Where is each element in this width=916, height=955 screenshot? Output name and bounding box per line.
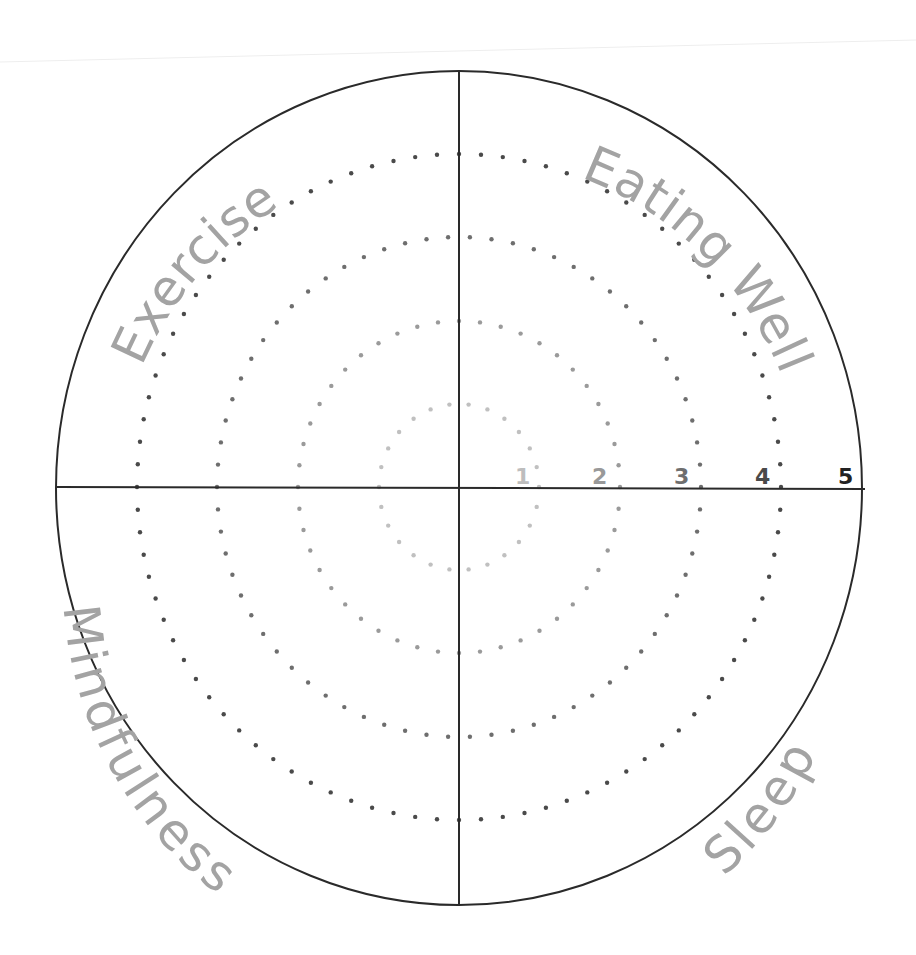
ring-4-dot	[349, 799, 353, 803]
ring-4-dot	[479, 153, 483, 157]
ring-2-dot	[329, 586, 333, 590]
ring-4-dot	[544, 164, 548, 168]
ring-3-dot	[698, 462, 702, 466]
ring-3-dot	[230, 573, 234, 577]
ring-2-dot	[308, 548, 312, 552]
ring-4-dot	[290, 200, 294, 204]
ring-1-dot	[466, 402, 470, 406]
ring-3-dot	[382, 247, 386, 251]
ring-4-dot	[370, 164, 374, 168]
ring-4-dot	[271, 757, 275, 761]
ring-2-dot	[518, 638, 522, 642]
ring-2-dot	[555, 617, 559, 621]
ring-3-dot	[468, 735, 472, 739]
ring-1-dot	[386, 446, 390, 450]
ring-1-dot	[379, 505, 383, 509]
ring-4-dot	[142, 553, 146, 557]
ring-3-dot	[290, 666, 294, 670]
ring-4-dot	[182, 658, 186, 662]
ring-3-dot	[552, 255, 556, 259]
ring-3-dot	[306, 680, 310, 684]
ring-3-dot	[675, 593, 679, 597]
ring-2-dot	[499, 325, 503, 329]
ring-3-dot	[249, 357, 253, 361]
ring-3-dot	[362, 715, 366, 719]
ring-3-dot	[219, 440, 223, 444]
ring-3-dot	[216, 507, 220, 511]
ring-4-dot	[624, 769, 628, 773]
ring-2-dot	[518, 331, 522, 335]
ring-4-dot	[136, 462, 140, 466]
ring-2-dot	[415, 325, 419, 329]
ring-2-dot	[585, 586, 589, 590]
ring-1-dot	[386, 523, 390, 527]
ring-4-dot	[743, 638, 747, 642]
ring-4-dot	[605, 781, 609, 785]
ring-3-dot	[698, 507, 702, 511]
ring-3-dot	[239, 593, 243, 597]
ring-3-dot	[424, 237, 428, 241]
ring-4-dot	[142, 417, 146, 421]
ring-3-dot	[275, 320, 279, 324]
ring-4-dot	[413, 155, 417, 159]
ring-3-dot	[324, 693, 328, 697]
ring-2-dot	[415, 645, 419, 649]
category-label-mindfulness: Mindfulness	[52, 601, 249, 904]
ring-4-dot	[772, 553, 776, 557]
ring-1-dot	[485, 562, 489, 566]
ring-4-dot	[707, 695, 711, 699]
ring-3-dot	[275, 649, 279, 653]
ring-3-dot	[695, 440, 699, 444]
ring-4-dot	[565, 171, 569, 175]
ring-4-dot	[732, 658, 736, 662]
category-label-sleep: Sleep	[692, 732, 828, 886]
ring-1-dot	[411, 553, 415, 557]
ring-4-dot	[207, 695, 211, 699]
ring-3-dot	[489, 733, 493, 737]
ring-2-dot	[436, 649, 440, 653]
ring-2-dot	[329, 384, 333, 388]
tick-5: 5	[838, 464, 853, 489]
ring-4-dot	[501, 815, 505, 819]
ring-4-dot	[776, 530, 780, 534]
ring-1-dot	[535, 505, 539, 509]
ring-4-dot	[153, 373, 157, 377]
ring-4-dot	[501, 155, 505, 159]
ring-3-dot	[224, 551, 228, 555]
ring-4-dot	[290, 769, 294, 773]
ring-2-dot	[478, 320, 482, 324]
ring-2-dot	[317, 402, 321, 406]
ring-3-dot	[665, 357, 669, 361]
ring-4-dot	[776, 440, 780, 444]
ring-4-dot	[237, 728, 241, 732]
ring-2-dot	[596, 568, 600, 572]
ring-4-dot	[677, 728, 681, 732]
ring-3-dot	[511, 241, 515, 245]
ring-1-dot	[411, 417, 415, 421]
ring-3-dot	[675, 376, 679, 380]
ring-4-dot	[760, 373, 764, 377]
ring-2-dot	[297, 463, 301, 467]
ring-2-dot	[616, 507, 620, 511]
ring-3-dot	[446, 735, 450, 739]
ring-2-dot	[612, 442, 616, 446]
ring-4-dot	[370, 806, 374, 810]
ring-3-dot	[624, 666, 628, 670]
ring-4-dot	[309, 189, 313, 193]
ring-1-dot	[466, 567, 470, 571]
ring-1-dot	[517, 430, 521, 434]
ring-4-dot	[585, 790, 589, 794]
ring-4-dot	[720, 677, 724, 681]
ring-3-dot	[639, 320, 643, 324]
ring-1-dot	[535, 465, 539, 469]
ring-1-dot	[528, 446, 532, 450]
ring-2-dot	[343, 602, 347, 606]
ring-3-dot	[489, 237, 493, 241]
ring-3-dot	[532, 723, 536, 727]
ring-3-dot	[665, 613, 669, 617]
ring-3-dot	[446, 235, 450, 239]
ring-4-dot	[643, 757, 647, 761]
ring-4-dot	[162, 618, 166, 622]
ring-4-dot	[743, 332, 747, 336]
ring-2-dot	[301, 528, 305, 532]
